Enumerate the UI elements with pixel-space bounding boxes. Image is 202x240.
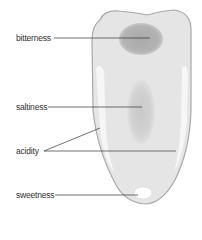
acidity-leader-line-left	[44, 128, 100, 151]
sweetness-label: sweetness	[16, 190, 54, 200]
sweetness-zone	[134, 187, 152, 199]
bitterness-zone	[119, 23, 163, 55]
saltiness-label: saltiness	[16, 102, 47, 112]
acidity-label: acidity	[16, 146, 39, 156]
saltiness-zone	[127, 80, 155, 144]
bitterness-label: bitterness	[16, 33, 51, 43]
